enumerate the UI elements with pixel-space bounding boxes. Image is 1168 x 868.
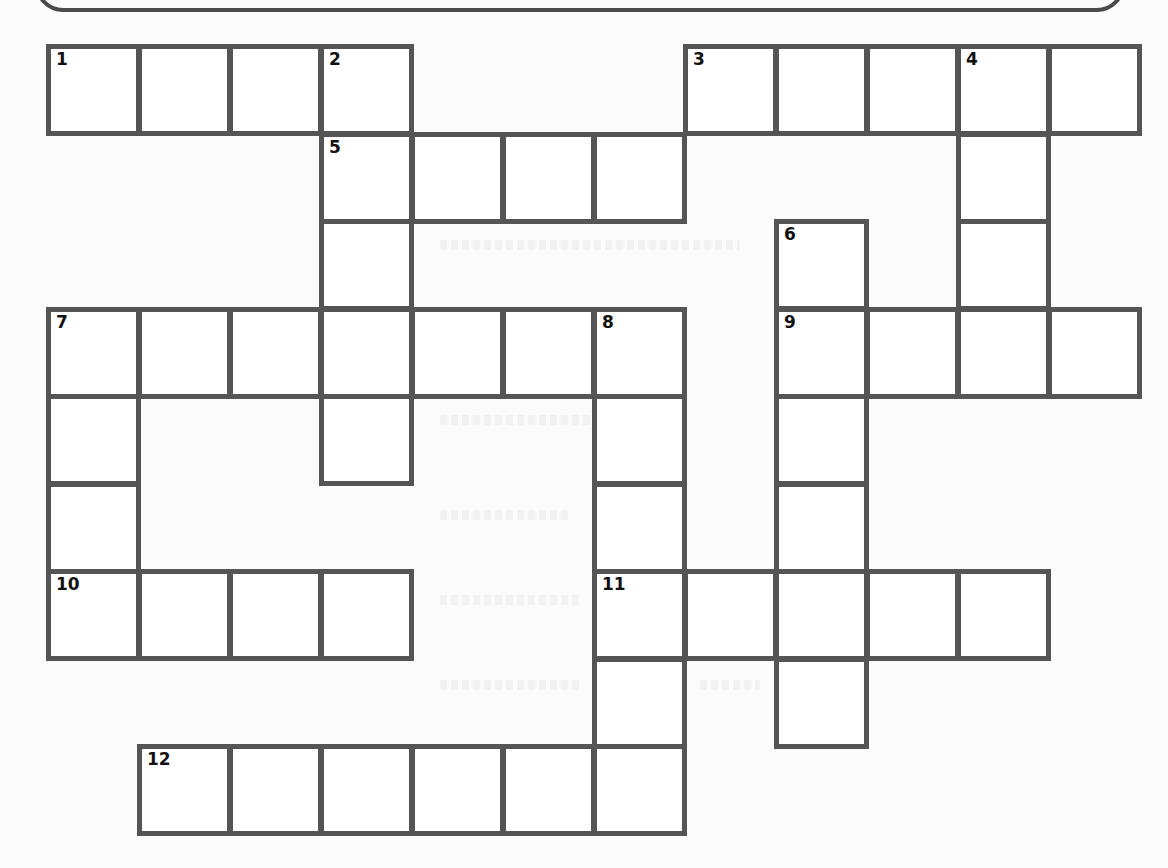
crossword-cell[interactable]	[956, 307, 1051, 399]
crossword-cell[interactable]	[683, 569, 778, 661]
crossword-cell[interactable]	[46, 482, 141, 574]
clue-number: 8	[602, 314, 614, 331]
crossword-cell[interactable]	[319, 307, 414, 399]
crossword-cell[interactable]	[956, 219, 1051, 311]
crossword-cell[interactable]	[774, 482, 869, 574]
crossword-cell[interactable]	[319, 394, 414, 486]
crossword-cell[interactable]	[137, 307, 232, 399]
crossword-cell[interactable]	[774, 44, 869, 136]
crossword-cell[interactable]	[228, 44, 323, 136]
crossword-cell[interactable]	[1047, 307, 1142, 399]
crossword-cell[interactable]: 7	[46, 307, 141, 399]
clue-number: 4	[966, 51, 978, 68]
crossword-cell[interactable]	[774, 394, 869, 486]
crossword-cell[interactable]	[956, 132, 1051, 224]
crossword-cell[interactable]	[865, 569, 960, 661]
clue-number: 6	[784, 226, 796, 243]
clue-number: 5	[329, 139, 341, 156]
crossword-cell[interactable]	[319, 219, 414, 311]
crossword-cell[interactable]	[319, 569, 414, 661]
crossword-cell[interactable]	[410, 132, 505, 224]
crossword-cell[interactable]: 4	[956, 44, 1051, 136]
crossword-cell[interactable]	[956, 569, 1051, 661]
crossword-cell[interactable]	[592, 482, 687, 574]
crossword-cell[interactable]: 3	[683, 44, 778, 136]
crossword-cell[interactable]	[774, 657, 869, 749]
crossword-cell[interactable]: 1	[46, 44, 141, 136]
clue-number: 12	[147, 751, 171, 768]
crossword-cell[interactable]	[137, 569, 232, 661]
clue-number: 11	[602, 576, 626, 593]
crossword-cell[interactable]	[774, 569, 869, 661]
crossword-cell[interactable]: 11	[592, 569, 687, 661]
crossword-cell[interactable]	[228, 307, 323, 399]
crossword-cell[interactable]	[228, 744, 323, 836]
crossword-cell[interactable]: 5	[319, 132, 414, 224]
crossword-cell[interactable]: 2	[319, 44, 414, 136]
clue-number: 10	[56, 576, 80, 593]
crossword-cell[interactable]	[228, 569, 323, 661]
crossword-cell[interactable]	[592, 132, 687, 224]
clue-number: 9	[784, 314, 796, 331]
clue-number: 3	[693, 51, 705, 68]
crossword-cell[interactable]	[501, 132, 596, 224]
crossword-cell[interactable]	[410, 744, 505, 836]
crossword-cell[interactable]: 10	[46, 569, 141, 661]
crossword-cell[interactable]	[137, 44, 232, 136]
crossword-cell[interactable]	[592, 657, 687, 749]
crossword-cell[interactable]: 9	[774, 307, 869, 399]
crossword-cell[interactable]	[865, 44, 960, 136]
crossword-cell[interactable]	[319, 744, 414, 836]
clue-number: 7	[56, 314, 68, 331]
clue-number: 2	[329, 51, 341, 68]
crossword-cell[interactable]: 12	[137, 744, 232, 836]
crossword-cell[interactable]	[865, 307, 960, 399]
clue-number: 1	[56, 51, 68, 68]
crossword-cell[interactable]: 8	[592, 307, 687, 399]
crossword-cell[interactable]	[592, 394, 687, 486]
crossword-cell[interactable]	[46, 394, 141, 486]
crossword-cell[interactable]	[501, 744, 596, 836]
crossword-cell[interactable]	[1047, 44, 1142, 136]
crossword-cell[interactable]	[410, 307, 505, 399]
crossword-cell[interactable]	[592, 744, 687, 836]
crossword-cell[interactable]: 6	[774, 219, 869, 311]
crossword-cell[interactable]	[501, 307, 596, 399]
crossword-grid: 125346978101112	[0, 0, 1168, 868]
